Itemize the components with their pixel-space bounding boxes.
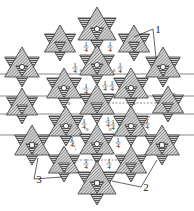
tetrahedron-star (145, 125, 180, 165)
tetrahedron-star (44, 25, 75, 61)
callout-number: 1 (155, 23, 161, 35)
atom-square-icon (160, 143, 165, 148)
svg-text:4: 4 (73, 67, 77, 75)
atom-circle-icon (128, 123, 133, 128)
tetrahedron-star (152, 86, 183, 122)
fraction-label: 14 (84, 40, 89, 54)
fraction-label: 14 (111, 118, 116, 132)
tetrahedra-layer (5, 7, 184, 205)
tetrahedron-star (118, 25, 149, 61)
height-label: 0 (113, 68, 116, 73)
height-label: 0 (86, 127, 89, 132)
fraction-label: 14 (70, 135, 75, 149)
svg-text:4: 4 (118, 67, 122, 75)
svg-text:4: 4 (116, 142, 120, 150)
svg-text:4: 4 (145, 123, 149, 131)
fraction-label: 14 (73, 61, 78, 75)
height-label: 0 (68, 101, 71, 106)
atom-circle-icon (128, 85, 133, 90)
atom-circle-icon (94, 62, 99, 67)
fraction-label: 14 (107, 157, 112, 171)
tetrahedron-star (146, 47, 181, 87)
callout-number: 3 (36, 173, 42, 185)
svg-text:4: 4 (108, 46, 112, 54)
atom-circle-icon (63, 123, 68, 128)
tetrahedron-star (115, 146, 146, 182)
tetrahedron-star (5, 47, 40, 87)
tetrahedron-star (15, 125, 50, 165)
fraction-label: 14 (118, 61, 123, 75)
callout-number: 2 (143, 181, 149, 193)
atom-circle-icon (19, 64, 24, 69)
atom-circle-icon (94, 26, 99, 31)
svg-text:4: 4 (70, 141, 74, 149)
tetrahedron-star (48, 146, 79, 182)
atom-square-icon (95, 181, 100, 186)
svg-text:4: 4 (110, 85, 114, 93)
fraction-label: 14 (84, 157, 89, 171)
atom-circle-icon (61, 85, 66, 90)
svg-text:4: 4 (107, 163, 111, 171)
fraction-label: 14 (145, 117, 150, 131)
tetrahedron-star (6, 88, 37, 124)
svg-text:4: 4 (84, 46, 88, 54)
height-label: 0 (133, 101, 136, 106)
fraction-label: 14 (108, 40, 113, 54)
fraction-label: 14 (110, 79, 115, 93)
svg-text:4: 4 (111, 124, 115, 132)
fraction-label: 14 (116, 136, 121, 150)
fraction-label: 14 (103, 79, 108, 93)
atom-square-icon (30, 143, 35, 148)
svg-text:4: 4 (103, 85, 107, 93)
crystal-structure-diagram: 1414140140141414000140141401414141414 12… (0, 0, 194, 211)
atom-circle-icon (160, 64, 165, 69)
atom-circle-icon (94, 141, 99, 146)
svg-text:4: 4 (84, 88, 88, 96)
svg-text:4: 4 (84, 163, 88, 171)
